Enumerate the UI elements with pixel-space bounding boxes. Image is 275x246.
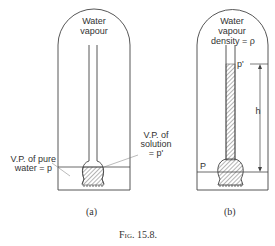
panel-a-apparatus: [52, 9, 138, 190]
panel-a-left-label-line2: water = p: [4, 164, 52, 173]
panel-a-top-label-line1: Water: [78, 17, 110, 26]
panel-b-top-label-line2: vapour: [212, 27, 252, 36]
panel-b-label: (b): [224, 206, 236, 217]
panel-b-column-top-label: p': [237, 60, 247, 69]
panel-b-height-label: h: [254, 107, 262, 116]
figure-caption: Fig. 15.8.: [119, 229, 157, 240]
panel-b-top-label-line1: Water: [214, 17, 250, 26]
panel-a-right-label-line3: = p': [138, 149, 174, 158]
panel-a-label: (a): [86, 206, 97, 217]
panel-b-level-label: P: [200, 162, 208, 171]
panel-b-top-label-line3: density = ρ: [204, 37, 262, 46]
panel-a-top-label-line2: vapour: [76, 27, 112, 36]
